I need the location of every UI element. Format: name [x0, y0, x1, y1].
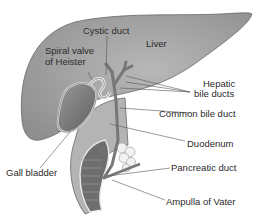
- label-spiral-valve-2: of Heister: [45, 56, 86, 67]
- label-ampulla-of-vater: Ampulla of Vater: [166, 196, 236, 207]
- label-common-bile-duct: Common bile duct: [159, 108, 236, 119]
- label-duodenum: Duodenum: [187, 138, 233, 149]
- label-spiral-valve-1: Spiral valve: [45, 45, 94, 56]
- label-hepatic-2: bile ducts: [194, 88, 234, 99]
- label-gall-bladder: Gall bladder: [6, 167, 57, 178]
- liver-shape: [21, 13, 252, 140]
- label-cystic-duct: Cystic duct: [83, 25, 129, 36]
- label-liver: Liver: [146, 38, 167, 49]
- label-pancreatic-duct: Pancreatic duct: [171, 162, 236, 173]
